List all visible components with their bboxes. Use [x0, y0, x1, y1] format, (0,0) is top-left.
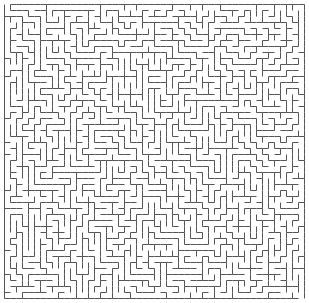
maze-canvas[interactable] [0, 0, 309, 303]
